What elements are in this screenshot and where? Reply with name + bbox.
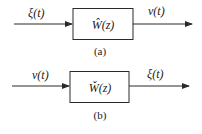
input-signal-label-a: ξ(t) — [28, 6, 44, 20]
block-label-b: W̌(z) — [89, 81, 112, 95]
output-signal-label-b: ξ(t) — [147, 67, 163, 81]
input-signal-label-b: ν(t) — [32, 68, 49, 82]
block-diagrams: ξ(t) Ŵ(z) ν(t) (a) ν(t) W̌(z) ξ(t) (b) — [0, 0, 202, 134]
block-label-a: Ŵ(z) — [92, 18, 115, 32]
diagram-b: ν(t) W̌(z) ξ(t) (b) — [12, 67, 189, 122]
caption-a: (a) — [94, 45, 107, 58]
diagram-a: ξ(t) Ŵ(z) ν(t) (a) — [14, 4, 192, 58]
output-signal-label-a: ν(t) — [148, 4, 165, 18]
caption-b: (b) — [94, 109, 107, 122]
